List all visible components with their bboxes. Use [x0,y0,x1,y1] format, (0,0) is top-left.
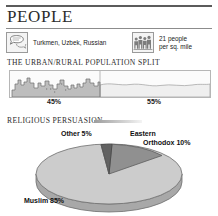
people-group-density-icon [132,32,154,53]
speech-bubble-language-icon [6,32,28,53]
urban-percent-label: 45% [9,98,99,105]
fact-density-line1: 21 people [159,35,187,42]
fact-density-text: 21 people per sq. mile [159,35,192,50]
urban-rural-heading: THE URBAN/RURAL POPULATION SPLIT [7,58,160,67]
fact-languages-text: Turkmen, Uzbek, Russian [33,39,106,47]
religion-heading-rule [94,120,142,123]
title-underline-divider [6,28,212,29]
key-facts-row: Turkmen, Uzbek, Russian 21 people [6,32,212,53]
urban-rural-percent-labels: 45% 55% [9,98,209,108]
page-title: PEOPLE [7,7,73,27]
pie-label-muslim: Muslim 85% [24,197,64,206]
pie-label-eastern-orthodox: Eastern Orthodox 10% [130,130,190,147]
fact-languages: Turkmen, Uzbek, Russian [6,32,106,53]
rural-percent-label: 55% [99,98,209,105]
pie-label-eastern-line2: Orthodox 10% [130,139,190,148]
fact-population-density: 21 people per sq. mile [132,32,192,53]
fact-density-line2: per sq. mile [159,43,192,51]
pie-label-eastern-line1: Eastern [130,130,156,137]
religion-heading: RELIGIOUS PERSUASION [7,116,103,125]
pie-label-other: Other 5% [61,130,92,139]
urban-rural-chart [9,70,211,98]
